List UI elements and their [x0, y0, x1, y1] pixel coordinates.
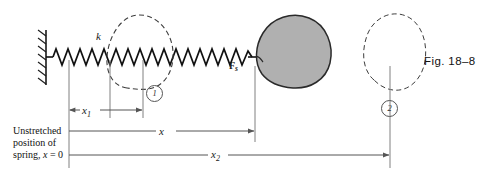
origin-note-line-1: Unstretched [13, 125, 63, 137]
figure-drawing-canvas [0, 0, 501, 174]
spring-constant-label: k [96, 30, 101, 43]
dimension-label-x1: x1 [82, 104, 91, 119]
block-mass [256, 15, 331, 88]
spring-group [46, 49, 256, 65]
origin-note-line-3: spring, x = 0 [13, 149, 63, 161]
dimension-label-x2: x2 [211, 148, 220, 163]
origin-note-line-2: position of [13, 137, 63, 149]
origin-note: Unstretched position of spring, x = 0 [13, 125, 63, 160]
origin-note-suffix: = 0 [47, 149, 63, 160]
spring-force-figure: k Fs x1 x x2 Unstretched position of spr… [0, 0, 501, 174]
dimension-lines-group [69, 110, 389, 155]
dimension-x2-subscript: 2 [216, 154, 220, 163]
wall-group [38, 30, 46, 85]
origin-note-prefix: spring, [13, 149, 43, 160]
ghost-mass-position-2 [364, 14, 426, 90]
dimension-x1-subscript: 1 [87, 110, 91, 119]
spring-force-subscript: s [235, 64, 238, 73]
figure-caption: Fig. 18–8 [424, 55, 476, 69]
spring-coil [53, 49, 252, 65]
spring-force-label: Fs [229, 60, 238, 74]
position-marker-1: 1 [146, 85, 163, 102]
position-marker-2: 2 [381, 100, 398, 117]
reference-lines-group [69, 60, 390, 168]
wall-hatching [38, 30, 46, 84]
dimension-label-x: x [159, 125, 164, 138]
